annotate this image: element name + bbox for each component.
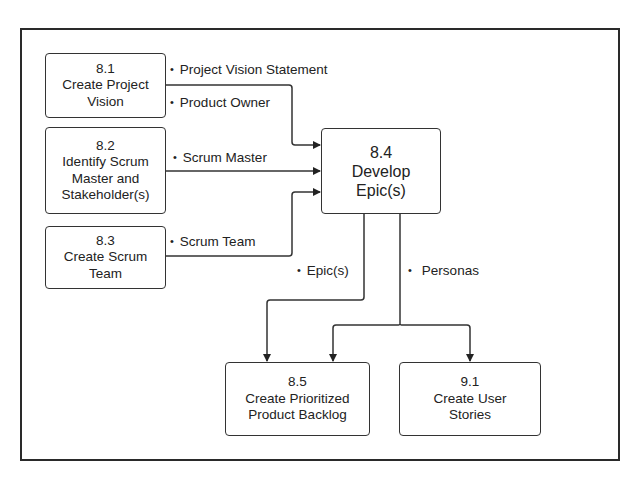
process-box-8-4[interactable]: 8.4 Develop Epic(s) — [321, 128, 441, 214]
process-title-line: Team — [89, 266, 122, 283]
process-title-line: Epic(s) — [356, 181, 406, 200]
process-number: 9.1 — [461, 374, 480, 391]
process-title-line: Stakeholder(s) — [62, 187, 150, 204]
bullet-icon: • — [170, 63, 174, 75]
process-number: 8.3 — [96, 233, 115, 250]
process-title-line: Vision — [87, 94, 124, 111]
bullet-icon: • — [170, 96, 174, 108]
process-number: 8.5 — [288, 374, 307, 391]
label-product-owner: •Product Owner — [170, 95, 270, 110]
label-epics: •Epic(s) — [297, 263, 349, 278]
process-title-line: Identify Scrum — [62, 154, 148, 171]
bullet-icon: • — [173, 151, 177, 163]
process-number: 8.4 — [370, 143, 392, 162]
process-box-8-2[interactable]: 8.2 Identify Scrum Master and Stakeholde… — [45, 127, 166, 214]
process-box-9-1[interactable]: 9.1 Create User Stories — [399, 362, 541, 436]
bullet-icon: • — [170, 235, 174, 247]
process-box-8-5[interactable]: 8.5 Create Prioritized Product Backlog — [225, 362, 370, 436]
label-project-vision-statement: •Project Vision Statement — [170, 62, 327, 77]
process-box-8-3[interactable]: 8.3 Create Scrum Team — [45, 226, 166, 289]
process-title-line: Master and — [72, 171, 140, 188]
bullet-icon: • — [408, 264, 412, 276]
bullet-icon: • — [297, 264, 301, 276]
process-number: 8.2 — [96, 138, 115, 155]
label-scrum-team: •Scrum Team — [170, 234, 255, 249]
process-number: 8.1 — [96, 61, 115, 78]
process-title-line: Product Backlog — [248, 407, 346, 424]
process-title-line: Create Project — [62, 77, 148, 94]
process-title-line: Stories — [449, 407, 491, 424]
process-box-8-1[interactable]: 8.1 Create Project Vision — [45, 53, 166, 118]
process-title-line: Develop — [352, 162, 411, 181]
process-title-line: Create User — [434, 391, 507, 408]
label-personas: •Personas — [408, 263, 479, 278]
process-title-line: Create Prioritized — [245, 391, 349, 408]
process-title-line: Create Scrum — [64, 249, 147, 266]
label-scrum-master: •Scrum Master — [173, 150, 267, 165]
